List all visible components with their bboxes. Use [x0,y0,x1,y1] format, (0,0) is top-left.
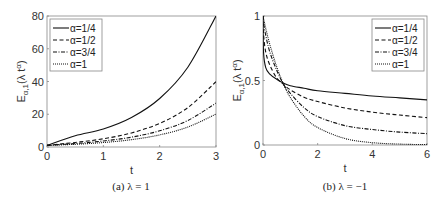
legend-label: α=1 [70,59,88,70]
legend: α=1/4α=1/2α=3/4α=1 [372,19,424,71]
y-axis-label: Eα,1(λ tα) [14,60,30,102]
plot-lambda-1: 0123020406080tEα,1(λ tα)(a) λ = 1α=1/4α=… [14,10,219,193]
y-tick-label: 0 [38,141,44,153]
legend-label: α=1/4 [392,23,418,34]
series-line [47,82,216,146]
y-tick-label: 0 [254,139,260,151]
x-tick-label: 3 [213,150,219,162]
y-tick-label: 1 [254,10,260,22]
plot-lambda-minus-1: 024600.51tEα,1(λ tα)(b) λ = −1α=1/4α=1/2… [230,10,430,193]
y-axis-label: Eα,1(λ tα) [230,59,246,101]
y-tick-label: 0.5 [245,75,260,87]
y-tick-label: 20 [32,108,44,120]
x-axis-label: t [343,162,346,174]
x-tick-label: 2 [157,150,163,162]
legend-label: α=1/2 [70,35,96,46]
series-line [47,103,216,145]
legend-label: α=1/2 [392,35,418,46]
x-tick-label: 0 [260,148,266,160]
legend-label: α=1/4 [70,23,96,34]
legend: α=1/4α=1/2α=3/4α=1 [50,19,102,71]
legend-label: α=1 [392,59,410,70]
y-tick-label: 40 [32,76,44,88]
y-tick-label: 80 [32,10,44,22]
legend-label: α=3/4 [392,47,418,58]
y-tick-label: 60 [32,43,44,55]
x-tick-label: 6 [424,148,430,160]
x-tick-label: 4 [369,148,375,160]
x-axis-label: t [130,164,133,176]
figure: 0123020406080tEα,1(λ tα)(a) λ = 1α=1/4α=… [0,0,440,204]
subfigure-caption: (b) λ = −1 [323,180,367,193]
legend-label: α=3/4 [70,47,96,58]
x-tick-label: 1 [100,150,106,162]
subfigure-caption: (a) λ = 1 [112,180,150,193]
x-tick-label: 0 [44,150,50,162]
x-tick-label: 2 [315,148,321,160]
